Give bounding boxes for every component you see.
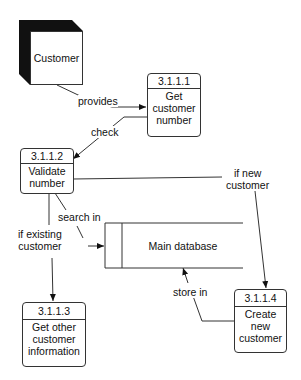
flow-search-in [55, 193, 66, 210]
flow-check [73, 117, 147, 159]
process-label: Create new customer [235, 307, 286, 344]
process-id: 3.1.1.4 [235, 290, 286, 307]
data-store-main-database[interactable]: Main database [105, 223, 244, 268]
process-id: 3.1.1.3 [23, 303, 85, 320]
flow-label-check: check [91, 126, 118, 138]
process-label: Get customer number [148, 89, 200, 126]
flow-label-search-in: search in [58, 211, 101, 223]
flow-label-if-new: if new customer [226, 167, 269, 191]
flow-if-new-2 [255, 191, 266, 288]
external-entity-customer[interactable]: Customer [30, 31, 83, 85]
process-id: 3.1.1.1 [148, 74, 200, 89]
process-label: Get other customer information [23, 320, 85, 357]
flow-store-in [193, 296, 234, 321]
flow-if-existing-2 [52, 258, 53, 301]
data-store-label: Main database [122, 223, 244, 268]
flow-search-in-2 [77, 226, 83, 238]
process-3-1-1-4[interactable]: 3.1.1.4 Create new customer [234, 289, 287, 353]
flow-store-in-arrow [183, 268, 188, 283]
process-3-1-1-3[interactable]: 3.1.1.3 Get other customer information [22, 302, 86, 367]
flow-label-provides: provides [78, 95, 118, 107]
process-3-1-1-1[interactable]: 3.1.1.1 Get customer number [147, 73, 201, 137]
entity-label: Customer [34, 52, 80, 64]
flow-label-if-existing: if existing customer [18, 228, 62, 252]
process-3-1-1-2[interactable]: 3.1.1.2 Validate number [20, 148, 74, 194]
process-label: Validate number [21, 164, 73, 189]
flow-label-store-in: store in [173, 286, 207, 298]
process-id: 3.1.1.2 [21, 149, 73, 164]
flow-if-new [73, 177, 222, 179]
